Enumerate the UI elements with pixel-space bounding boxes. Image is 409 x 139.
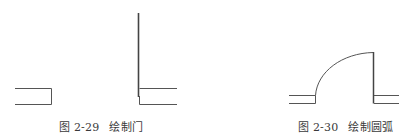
right-wall-stub [374,96,399,104]
caption-title: 绘制门 [109,121,143,134]
figure-caption-2-30: 图 2-30绘制圆弧 [298,118,393,134]
left-wall-stub [289,96,316,104]
caption-number: 图 2-29 [59,121,99,134]
figure-2-29-drawing [15,13,177,105]
right-wall-stub [140,89,178,105]
left-wall-stub [15,89,52,105]
door-swing-arc [316,53,374,96]
figure-caption-2-29: 图 2-29绘制门 [59,118,143,134]
caption-title: 绘制圆弧 [348,121,393,134]
figure-2-30-drawing [289,52,399,104]
caption-number: 图 2-30 [298,121,338,134]
